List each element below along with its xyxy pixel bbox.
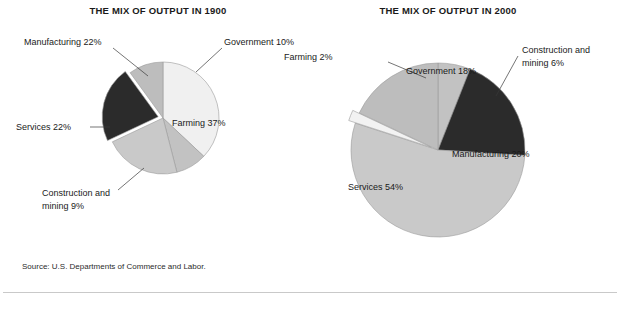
inner-label-manufacturing-2000: Manufacturing 20% <box>452 149 530 159</box>
callout-farming-2000: Farming 2% <box>284 52 333 62</box>
inner-label-government-2000: Government 18% <box>406 66 476 76</box>
leader-line-manufacturing-1900 <box>113 48 148 76</box>
leader-line-government-1900 <box>196 48 222 72</box>
callout-services-1900: Services 22% <box>16 122 71 132</box>
callout-manufacturing-1900: Manufacturing 22% <box>24 37 102 47</box>
pie-chart-2000: Farming 2% Construction and mining 6% Go… <box>300 0 620 290</box>
inner-label-farming-1900: Farming 37% <box>172 118 226 128</box>
bottom-divider <box>3 292 617 293</box>
callout-construction-line1-1900: Construction and <box>42 188 110 198</box>
figure-canvas: THE MIX OF OUTPUT IN 1900 THE MIX OF OUT… <box>0 0 620 313</box>
callout-government-1900: Government 10% <box>224 37 294 47</box>
inner-label-services-2000: Services 54% <box>348 182 403 192</box>
leader-line-construction-2000 <box>496 56 518 96</box>
callout-construction-line1-2000: Construction and <box>522 45 590 55</box>
leader-line-construction-1900 <box>118 168 144 190</box>
callout-construction-line2-1900: mining 9% <box>42 201 84 211</box>
callout-construction-line2-2000: mining 6% <box>522 58 564 68</box>
pie-chart-1900: Government 10% Manufacturing 22% Service… <box>0 0 310 290</box>
source-note: Source: U.S. Departments of Commerce and… <box>22 262 206 271</box>
